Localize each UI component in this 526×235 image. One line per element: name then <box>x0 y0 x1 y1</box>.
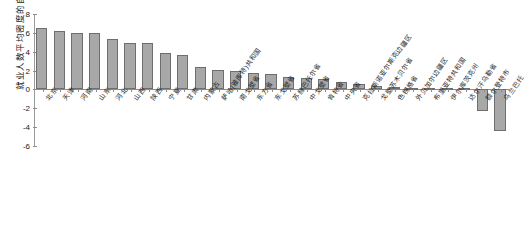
bar-slot[interactable] <box>52 14 70 146</box>
x-tick-mark <box>466 89 467 92</box>
x-tick-mark <box>290 89 291 92</box>
bar-slot[interactable] <box>140 14 158 146</box>
bar[interactable] <box>177 55 188 89</box>
x-tick-mark <box>360 89 361 92</box>
x-tick-mark <box>131 89 132 92</box>
y-tick-label: -4 <box>23 123 30 132</box>
y-tick-label: 2 <box>26 66 30 75</box>
y-tick-label: -2 <box>23 104 30 113</box>
y-tick-mark <box>33 146 37 147</box>
y-tick-label: -6 <box>23 142 30 151</box>
bar[interactable] <box>160 53 171 89</box>
x-tick-mark <box>325 89 326 92</box>
bar[interactable] <box>142 43 153 90</box>
bar-slot[interactable] <box>105 14 123 146</box>
bar[interactable] <box>36 28 47 89</box>
x-tick-mark <box>413 89 414 92</box>
x-tick-mark <box>43 89 44 92</box>
x-tick-mark <box>219 89 220 92</box>
x-tick-mark <box>272 89 273 92</box>
bar-slot[interactable] <box>157 14 175 146</box>
bar[interactable] <box>195 67 206 89</box>
bar-slot[interactable] <box>34 14 52 146</box>
x-tick-mark <box>78 89 79 92</box>
bar[interactable] <box>107 39 118 89</box>
y-tick-label: 6 <box>26 28 30 37</box>
bar[interactable] <box>89 33 100 89</box>
y-axis-title: 就业人数平均密度的自然对数 <box>13 0 25 103</box>
x-tick-mark <box>501 89 502 92</box>
y-tick-label: 0 <box>26 85 30 94</box>
bar[interactable] <box>71 33 82 89</box>
x-tick-mark <box>184 89 185 92</box>
bar[interactable] <box>54 31 65 89</box>
x-tick-mark <box>96 89 97 92</box>
bar-series <box>34 14 510 146</box>
bar-slot[interactable] <box>175 14 193 146</box>
x-tick-mark <box>166 89 167 92</box>
bar-slot[interactable] <box>87 14 105 146</box>
bar[interactable] <box>124 43 135 90</box>
x-tick-mark <box>378 89 379 92</box>
bar-slot[interactable] <box>69 14 87 146</box>
bar-slot[interactable] <box>193 14 211 146</box>
y-tick-label: 4 <box>26 47 30 56</box>
y-tick-label: 8 <box>26 10 30 19</box>
plot-area: 86420-2-4-6 <box>34 14 510 146</box>
x-tick-mark <box>237 89 238 92</box>
x-tick-mark <box>431 89 432 92</box>
x-tick-mark <box>307 89 308 92</box>
bar-slot[interactable] <box>122 14 140 146</box>
